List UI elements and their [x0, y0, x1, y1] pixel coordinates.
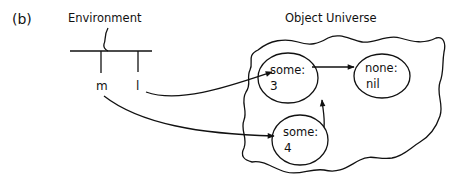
object-node [272, 115, 328, 165]
object-tag: none: [365, 61, 398, 75]
object-tag: some: [270, 63, 305, 77]
object-value: 4 [284, 141, 292, 155]
panel-label: (b) [12, 11, 32, 27]
object-none-nil: none: nil [354, 54, 410, 98]
binding-label-m: m [96, 79, 108, 93]
binding-label-l: l [136, 79, 139, 93]
environment-pointer [104, 28, 108, 51]
object-universe: Object Universe some: 3 none: nil some: … [242, 11, 444, 173]
environment-title: Environment [68, 11, 142, 25]
object-some-3: some: 3 [258, 53, 318, 103]
object-universe-title: Object Universe [285, 11, 377, 25]
object-value: 3 [270, 79, 278, 93]
environment: Environment m l [68, 11, 152, 93]
object-value: nil [366, 77, 380, 91]
edge-m-to-some-4 [104, 96, 274, 136]
object-node [258, 53, 318, 103]
edge-l-to-some-3 [146, 72, 272, 96]
diagram-canvas: (b) Environment m l Object Universe some… [0, 0, 459, 178]
object-tag: some: [283, 125, 318, 139]
object-some-4: some: 4 [272, 115, 328, 165]
edge-some-4-to-some-3 [322, 100, 324, 127]
